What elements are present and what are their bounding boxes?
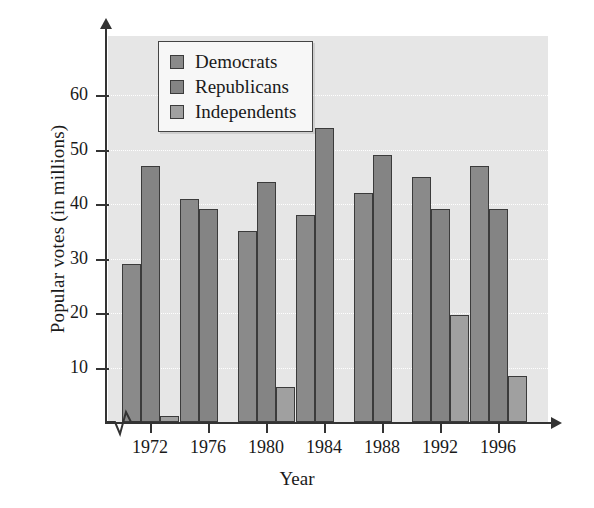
bar-democrats-1996 xyxy=(470,166,489,422)
legend-label: Independents xyxy=(195,101,296,123)
y-axis-tick xyxy=(96,95,109,97)
bar-independents-1992 xyxy=(450,315,469,422)
x-axis-tick-label: 1996 xyxy=(463,437,533,458)
legend: DemocratsRepublicansIndependents xyxy=(158,41,313,132)
bar-chart: Popular votes (in millions) 102030405060… xyxy=(0,0,594,508)
legend-label: Democrats xyxy=(195,51,277,73)
legend-item-independents: Independents xyxy=(170,99,296,124)
bar-democrats-1984 xyxy=(296,215,315,422)
bar-republicans-1972 xyxy=(141,166,160,422)
x-axis-tick xyxy=(382,424,384,433)
y-axis-tick-label: 20 xyxy=(28,302,88,323)
bar-democrats-1976 xyxy=(180,199,199,422)
y-axis-tick-label: 40 xyxy=(28,193,88,214)
legend-swatch-icon xyxy=(170,80,184,94)
y-axis-arrow-icon xyxy=(100,18,112,29)
y-axis-tick xyxy=(96,313,109,315)
x-axis-tick xyxy=(498,424,500,433)
x-axis-tick xyxy=(324,424,326,433)
legend-swatch-icon xyxy=(170,55,184,69)
y-axis-tick-label: 60 xyxy=(28,84,88,105)
y-axis-tick-label: 10 xyxy=(28,357,88,378)
y-axis-tick xyxy=(96,259,109,261)
x-axis-title: Year xyxy=(0,468,594,490)
x-axis-tick xyxy=(266,424,268,433)
bar-republicans-1988 xyxy=(373,155,392,422)
y-axis-tick xyxy=(96,368,109,370)
y-axis-tick xyxy=(96,150,109,152)
x-axis-tick xyxy=(208,424,210,433)
bar-democrats-1980 xyxy=(238,231,257,422)
y-axis-tick-label: 50 xyxy=(28,139,88,160)
x-axis-line xyxy=(105,422,555,424)
y-axis-tick-label: 30 xyxy=(28,248,88,269)
bar-republicans-1980 xyxy=(257,182,276,422)
y-axis-title: Popular votes (in millions) xyxy=(47,79,69,379)
legend-label: Republicans xyxy=(195,76,289,98)
x-axis-arrow-icon xyxy=(551,417,562,429)
legend-item-republicans: Republicans xyxy=(170,74,296,99)
x-axis-tick xyxy=(440,424,442,433)
bar-republicans-1984 xyxy=(315,128,334,422)
bar-independents-1996 xyxy=(508,376,527,422)
bar-democrats-1992 xyxy=(412,177,431,422)
legend-item-democrats: Democrats xyxy=(170,49,296,74)
x-axis-tick xyxy=(150,424,152,433)
bar-republicans-1976 xyxy=(199,209,218,422)
legend-rows: DemocratsRepublicansIndependents xyxy=(170,49,296,124)
bar-independents-1980 xyxy=(276,387,295,422)
bar-republicans-1992 xyxy=(431,209,450,422)
bar-democrats-1988 xyxy=(354,193,373,422)
y-axis-line xyxy=(105,26,107,424)
y-axis-tick xyxy=(96,204,109,206)
legend-swatch-icon xyxy=(170,105,184,119)
bar-republicans-1996 xyxy=(489,209,508,422)
bar-democrats-1972 xyxy=(122,264,141,422)
axis-break-zigzag-icon xyxy=(106,408,142,438)
